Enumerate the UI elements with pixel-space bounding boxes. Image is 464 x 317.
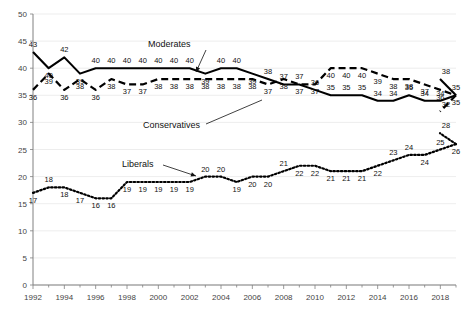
y-axis: 05101520253035404550 — [18, 10, 33, 290]
x-tick-label: 2016 — [400, 293, 418, 302]
data-label: 21 — [279, 159, 287, 168]
data-label: 37 — [138, 87, 146, 96]
x-tick-label: 2004 — [212, 293, 230, 302]
data-label-end: 32 — [442, 100, 450, 109]
annotation-leader — [163, 165, 196, 176]
x-tick-label: 1992 — [24, 293, 42, 302]
data-label: 38 — [232, 82, 240, 91]
annotation-leader — [206, 100, 262, 124]
data-label: 38 — [170, 82, 178, 91]
y-tick-label: 45 — [18, 37, 27, 46]
data-label: 20 — [201, 165, 209, 174]
x-tick-label: 2012 — [337, 293, 355, 302]
chart-container: 05101520253035404550 1992199419961998200… — [0, 0, 464, 317]
y-tick-label: 10 — [18, 227, 27, 236]
data-label: 19 — [232, 185, 240, 194]
data-label: 24 — [420, 158, 428, 167]
data-label: 39 — [373, 77, 381, 86]
x-tick-label: 2000 — [149, 293, 167, 302]
y-tick-label: 15 — [18, 200, 27, 209]
x-tick-label: 2008 — [275, 293, 293, 302]
data-label: 24 — [405, 143, 413, 152]
data-label: 40 — [185, 56, 193, 65]
data-label: 18 — [44, 175, 52, 184]
annotation-arrowhead — [191, 172, 197, 176]
data-label: 38 — [217, 82, 225, 91]
data-label: 40 — [217, 56, 225, 65]
data-label: 35 — [452, 83, 460, 92]
x-tick-label: 2006 — [243, 293, 261, 302]
data-label: 40 — [91, 56, 99, 65]
y-tick-label: 5 — [23, 254, 28, 263]
data-label: 37 — [279, 72, 287, 81]
x-tick-label: 2014 — [369, 293, 387, 302]
y-tick-label: 40 — [18, 64, 27, 73]
data-label: 20 — [264, 180, 272, 189]
data-label: 38 — [248, 82, 256, 91]
data-label: 23 — [389, 148, 397, 157]
data-label: 17 — [76, 196, 84, 205]
data-label: 18 — [60, 190, 68, 199]
data-label: 38 — [76, 82, 84, 91]
data-label: 34 — [373, 89, 381, 98]
data-label: 40 — [342, 71, 350, 80]
y-tick-label: 30 — [18, 118, 27, 127]
data-label: 16 — [91, 201, 99, 210]
data-label: 22 — [311, 169, 319, 178]
data-label: 40 — [358, 71, 366, 80]
data-label: 38 — [389, 82, 397, 91]
data-point-labels: 4340423940404040404040394040393837373635… — [29, 40, 460, 210]
data-label: 19 — [154, 185, 162, 194]
data-label: 22 — [373, 169, 381, 178]
data-label: 40 — [326, 71, 334, 80]
data-label: 37 — [420, 87, 428, 96]
x-tick-label: 2018 — [431, 293, 449, 302]
poll-trend-line-chart: 05101520253035404550 1992199419961998200… — [0, 0, 464, 317]
data-label: 20 — [217, 165, 225, 174]
data-label: 40 — [232, 56, 240, 65]
data-label: 42 — [60, 45, 68, 54]
data-label: 16 — [107, 201, 115, 210]
x-tick-label: 1994 — [55, 293, 73, 302]
data-label: 38 — [264, 67, 272, 76]
x-tick-label: 1998 — [118, 293, 136, 302]
data-label: 40 — [170, 56, 178, 65]
data-label: 21 — [326, 174, 334, 183]
data-label: 43 — [29, 40, 37, 49]
data-label: 36 — [29, 93, 37, 102]
y-tick-label: 0 — [23, 281, 28, 290]
data-label: 37 — [295, 72, 303, 81]
data-label: 22 — [295, 169, 303, 178]
data-label: 40 — [107, 56, 115, 65]
data-label: 25 — [436, 138, 444, 147]
x-tick-label: 2002 — [181, 293, 199, 302]
data-label: 36 — [311, 78, 319, 87]
data-label: 35 — [358, 83, 366, 92]
data-label: 35 — [342, 83, 350, 92]
data-label-end: 38 — [442, 67, 450, 76]
x-tick-label: 1996 — [87, 293, 105, 302]
annotation-liberals: Liberals — [122, 159, 154, 169]
data-label: 40 — [154, 56, 162, 65]
data-label-end: 28 — [442, 121, 450, 130]
data-label: 19 — [123, 185, 131, 194]
data-label: 36 — [60, 93, 68, 102]
annotation-moderates: Moderates — [148, 39, 191, 49]
data-label: 36 — [91, 93, 99, 102]
data-label: 17 — [29, 196, 37, 205]
y-tick-label: 20 — [18, 173, 27, 182]
data-label: 38 — [279, 82, 287, 91]
annotation-conservatives: Conservatives — [143, 120, 201, 130]
y-tick-label: 25 — [18, 146, 27, 155]
data-label: 37 — [311, 87, 319, 96]
data-label: 39 — [44, 77, 52, 86]
data-label: 21 — [342, 174, 350, 183]
data-label: 20 — [248, 180, 256, 189]
data-label: 38 — [185, 82, 193, 91]
data-label: 26 — [452, 147, 460, 156]
data-label: 35 — [452, 98, 460, 107]
x-tick-label: 2010 — [306, 293, 324, 302]
data-label: 21 — [358, 174, 366, 183]
data-label: 40 — [138, 56, 146, 65]
y-tick-label: 50 — [18, 10, 27, 19]
